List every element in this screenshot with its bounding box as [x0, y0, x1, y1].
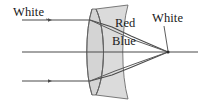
incoming-ray-bottom-arrow: [48, 79, 52, 83]
label-white-incoming: White: [13, 6, 44, 19]
label-blue-ray: Blue: [112, 35, 136, 48]
optics-ray-diagram: White Red Blue White: [0, 0, 205, 104]
label-white-focus: White: [152, 12, 183, 25]
leader-line-white-right: [164, 26, 168, 51]
label-red-ray: Red: [115, 17, 135, 30]
